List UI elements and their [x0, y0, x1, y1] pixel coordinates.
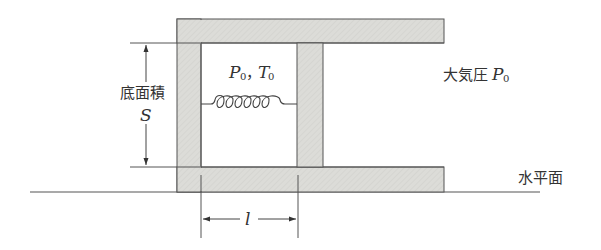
length-label: l: [245, 209, 250, 229]
piston: [297, 43, 323, 167]
area-symbol: S: [140, 105, 152, 125]
svg-text:0: 0: [503, 73, 509, 84]
diagram-canvas: P 0 ， T 0 大気圧 P 0 水平面 底面積 S l: [0, 0, 601, 250]
ground-label: 水平面: [518, 169, 563, 187]
spring: [201, 96, 297, 108]
svg-text:大気圧: 大気圧: [443, 66, 488, 84]
gas-state-label: P 0 ， T 0: [228, 62, 274, 82]
cylinder-left-wall: [177, 19, 201, 192]
atmospheric-pressure-label: 大気圧 P 0: [443, 64, 509, 84]
area-label: 底面積: [120, 84, 165, 102]
svg-text:0: 0: [268, 71, 274, 82]
